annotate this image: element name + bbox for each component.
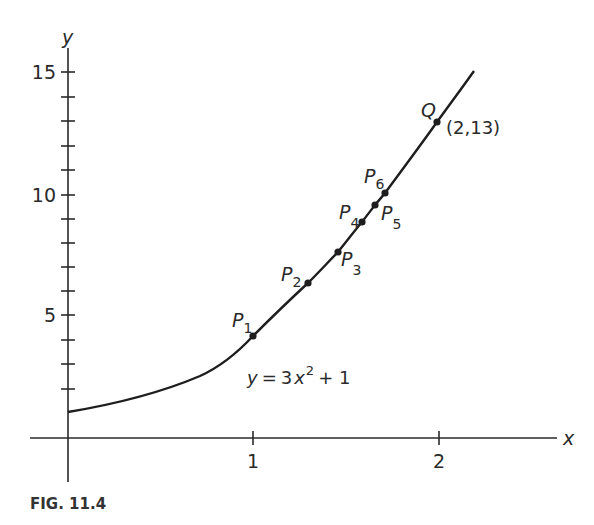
label-p3: P3	[341, 248, 361, 278]
label-p6: P6	[364, 165, 384, 192]
label-p1: P1	[232, 309, 252, 336]
curve-points	[249, 118, 440, 339]
y-axis-label: y	[61, 26, 74, 48]
y-tick-label-5: 5	[44, 304, 56, 326]
y-tick-label-10: 10	[32, 184, 56, 206]
label-p5: P5	[381, 202, 401, 232]
label-q: Q	[421, 99, 436, 121]
equation-label: y=3x2+ 1	[246, 363, 350, 388]
point-p5	[371, 201, 378, 208]
x-tick-label-2: 2	[433, 450, 445, 472]
x-axis-label: x	[562, 427, 575, 449]
figure-caption: FIG. 11.4	[30, 495, 106, 513]
y-tick-label-15: 15	[32, 61, 56, 83]
x-tick-label-1: 1	[247, 450, 259, 472]
point-p4	[358, 218, 365, 225]
label-q-coordinates: (2,13)	[446, 117, 500, 138]
label-p2: P2	[281, 263, 301, 290]
parabola-curve	[68, 71, 474, 412]
figure-canvas: 15 10 5 1 2 y x P1 P2 P3 P4 P5 P6 Q (2,1…	[0, 0, 594, 525]
label-p4: P4	[339, 201, 359, 231]
point-p2	[304, 279, 311, 286]
